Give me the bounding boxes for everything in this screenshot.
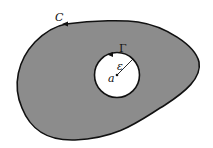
label-C: C (55, 11, 64, 24)
label-epsilon: ε (117, 60, 123, 73)
label-a: a (108, 72, 115, 85)
label-Gamma: Γ (119, 42, 127, 55)
center-point (116, 74, 119, 77)
contour-diagram: C Γ ε a (0, 0, 213, 148)
